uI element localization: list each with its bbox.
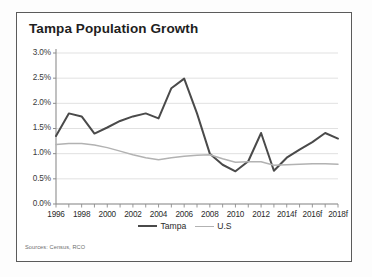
- legend-label-us: U.S: [217, 221, 231, 231]
- legend-item-us: U.S: [195, 221, 231, 231]
- legend-line-icon-tampa: [138, 225, 157, 227]
- legend-item-tampa: Tampa: [138, 221, 186, 231]
- axis-lines: [53, 49, 338, 204]
- y-axis-tick-label: 2.0%: [21, 98, 51, 107]
- gridlines: [56, 53, 338, 204]
- y-axis-tick-label: 1.5%: [21, 123, 51, 132]
- legend-line-icon-us: [195, 226, 214, 227]
- y-axis-tick-label: 0.5%: [21, 174, 51, 183]
- y-axis-tick-label: 2.5%: [21, 73, 51, 82]
- legend-label-tampa: Tampa: [160, 221, 186, 231]
- y-axis-tick-label: 3.0%: [21, 48, 51, 57]
- series-lines: [56, 79, 338, 172]
- chart-figure: Tampa Population Growth 3.0%2.5%2.0%1.5%…: [16, 12, 352, 262]
- y-axis-tick-label: 1.0%: [21, 148, 51, 157]
- y-axis-tick-label: 0.0%: [21, 199, 51, 208]
- x-axis-tick-label: 2018f: [322, 210, 354, 219]
- screenshot-root: Tampa Population Growth 3.0%2.5%2.0%1.5%…: [0, 0, 372, 277]
- chart-legend: Tampa U.S: [17, 221, 353, 231]
- source-note: Sources: Census, RCO: [25, 244, 85, 250]
